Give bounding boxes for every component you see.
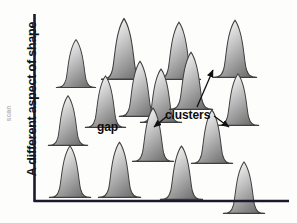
marker-c10 — [217, 74, 258, 126]
marker-c1 — [56, 40, 95, 88]
marker-c14 — [98, 142, 140, 197]
annotation-gap: gap — [97, 120, 118, 134]
marker-c13 — [49, 146, 90, 198]
marker-c16 — [223, 162, 264, 214]
data-markers — [48, 19, 264, 214]
annotation-clusters: clusters — [165, 108, 210, 122]
plot-canvas — [0, 0, 297, 223]
marker-c15 — [160, 146, 202, 199]
figure-panel: scan A different aspect of shape — [0, 0, 297, 223]
marker-c9 — [48, 96, 87, 146]
marker-c4 — [213, 20, 256, 77]
